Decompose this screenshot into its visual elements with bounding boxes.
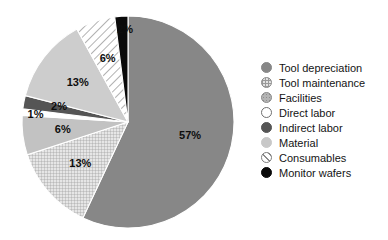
legend-item-label: Monitor wafers xyxy=(279,167,351,179)
legend-swatch-icon xyxy=(261,122,272,133)
legend-swatch-icon xyxy=(261,62,272,73)
pie-slice-label: 2% xyxy=(117,23,133,35)
legend-item-label: Facilities xyxy=(279,92,322,104)
legend-swatch-icon xyxy=(261,137,272,148)
legend-item-label: Tool maintenance xyxy=(279,77,365,89)
pie-chart-svg: 57%13%6%1%2%13%6%2% xyxy=(20,14,236,230)
legend-item-label: Direct labor xyxy=(279,107,335,119)
legend-item[interactable]: Tool maintenance xyxy=(261,75,385,90)
legend-item[interactable]: Consumables xyxy=(261,150,385,165)
pie-slice-label: 6% xyxy=(100,52,116,64)
legend-item-label: Consumables xyxy=(279,152,346,164)
pie-slice-label: 1% xyxy=(28,108,44,120)
pie-slice-label: 13% xyxy=(67,76,89,88)
legend-item-label: Tool depreciation xyxy=(279,62,362,74)
pie-slice-label: 57% xyxy=(179,129,201,141)
pie-slice-label: 2% xyxy=(51,100,67,112)
legend-swatch-icon xyxy=(261,107,272,118)
pie-slice-label: 13% xyxy=(69,157,91,169)
legend-swatch-icon xyxy=(261,152,272,163)
pie-slice-label: 6% xyxy=(55,123,71,135)
legend-item-label: Indirect labor xyxy=(279,122,343,134)
legend-item-label: Material xyxy=(279,137,318,149)
pie-chart-figure: 57%13%6%1%2%13%6%2% Tool depreciationToo… xyxy=(0,0,388,240)
legend-item[interactable]: Monitor wafers xyxy=(261,165,385,180)
legend-swatch-icon xyxy=(261,77,272,88)
legend-item[interactable]: Tool depreciation xyxy=(261,60,385,75)
chart-legend: Tool depreciationTool maintenanceFacilit… xyxy=(261,60,385,180)
legend-swatch-icon xyxy=(261,167,272,178)
legend-swatch-icon xyxy=(261,92,272,103)
legend-item[interactable]: Direct labor xyxy=(261,105,385,120)
legend-item[interactable]: Indirect labor xyxy=(261,120,385,135)
pie-chart-plot-area: 57%13%6%1%2%13%6%2% xyxy=(20,14,236,230)
legend-item[interactable]: Facilities xyxy=(261,90,385,105)
pie-slice-group xyxy=(22,16,234,228)
legend-item[interactable]: Material xyxy=(261,135,385,150)
